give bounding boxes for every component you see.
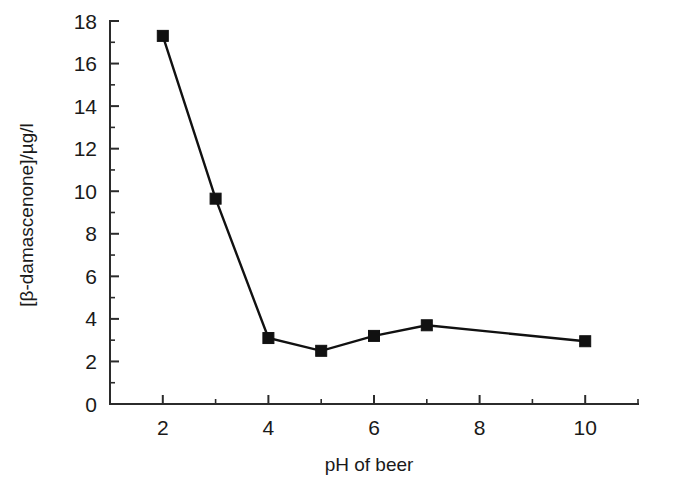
x-tick-label: 4: [263, 416, 275, 439]
y-tick-label: 8: [85, 222, 97, 245]
data-point-marker: [210, 193, 221, 204]
line-chart-canvas: 024681012141618 246810 pH of beer [β-dam…: [0, 0, 674, 487]
y-axis-title: [β-damascenone]/µg/l: [16, 123, 37, 306]
x-tick-label: 2: [157, 416, 169, 439]
data-point-marker: [316, 345, 327, 356]
data-point-marker: [157, 30, 168, 41]
y-tick-label: 18: [74, 10, 97, 33]
data-point-marker: [580, 336, 591, 347]
y-tick-label: 0: [85, 393, 97, 416]
y-tick-label: 6: [85, 265, 97, 288]
y-tick-label: 12: [74, 137, 97, 160]
data-point-marker: [369, 330, 380, 341]
axis-ticks: [110, 21, 638, 404]
data-point-marker: [263, 333, 274, 344]
data-series: [157, 30, 590, 356]
axis-lines: [110, 21, 638, 404]
y-tick-label: 14: [74, 95, 98, 118]
x-tick-label: 10: [574, 416, 597, 439]
y-axis-tick-labels: 024681012141618: [74, 10, 98, 416]
axes: [110, 21, 638, 404]
series-line: [163, 36, 585, 351]
y-tick-label: 16: [74, 52, 97, 75]
x-tick-label: 6: [368, 416, 380, 439]
y-tick-label: 2: [85, 350, 97, 373]
x-axis-tick-labels: 246810: [157, 416, 597, 439]
chart-figure: 024681012141618 246810 pH of beer [β-dam…: [0, 0, 674, 487]
y-tick-label: 10: [74, 180, 97, 203]
data-point-marker: [421, 320, 432, 331]
x-axis-title: pH of beer: [325, 454, 414, 475]
x-tick-label: 8: [474, 416, 486, 439]
y-tick-label: 4: [85, 307, 97, 330]
